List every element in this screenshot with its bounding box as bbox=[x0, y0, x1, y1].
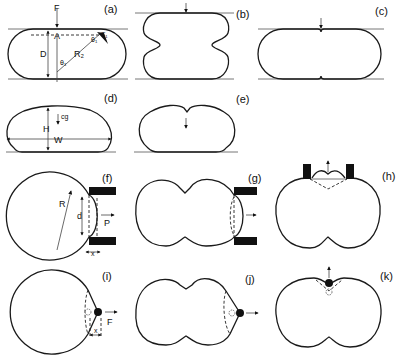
force-label: P bbox=[104, 218, 110, 228]
depth-label: D bbox=[40, 49, 47, 59]
panel-label-j: (j) bbox=[245, 273, 255, 285]
cg-label: cg bbox=[61, 113, 69, 121]
panel-label-i: (i) bbox=[102, 270, 112, 282]
panel-label-f: (f) bbox=[102, 172, 112, 184]
panel-label-a: (a) bbox=[104, 3, 117, 15]
panel-k: (k) bbox=[276, 267, 393, 347]
cell-outline bbox=[276, 278, 381, 347]
panel-label-c: (c) bbox=[375, 5, 388, 17]
aspirated-bulge bbox=[89, 195, 97, 237]
bead-initial-icon bbox=[229, 310, 235, 316]
cell-outline bbox=[144, 13, 229, 79]
pipette-wall-top bbox=[234, 187, 257, 195]
pipette-wall-bottom bbox=[234, 237, 257, 245]
bead-icon bbox=[236, 309, 244, 317]
cell-outline bbox=[258, 29, 381, 79]
aspirated-bulge bbox=[234, 195, 243, 237]
pipette-wall-top bbox=[89, 187, 116, 195]
panel-d: H cg W (d) bbox=[6, 92, 117, 152]
panel-label-b: (b) bbox=[236, 8, 249, 20]
drop-outline bbox=[7, 106, 111, 152]
initial-contour bbox=[230, 197, 234, 235]
panel-j: (j) bbox=[136, 273, 258, 345]
bead-icon bbox=[94, 308, 102, 316]
bead-icon bbox=[325, 279, 333, 287]
tension-label: T₁ bbox=[101, 31, 108, 38]
panel-label-k: (k) bbox=[380, 270, 393, 282]
width-label: W bbox=[54, 135, 63, 145]
panel-e: (e) bbox=[134, 93, 249, 152]
offset-label: x bbox=[94, 327, 98, 334]
bead-initial-icon bbox=[326, 289, 332, 295]
bead-initial-icon bbox=[85, 309, 91, 315]
depth-label: d bbox=[77, 211, 82, 221]
offset-label: x bbox=[91, 250, 95, 257]
panel-b: (b) bbox=[135, 3, 249, 79]
panel-i: F x (i) bbox=[10, 270, 117, 354]
panel-h: (h) bbox=[276, 161, 396, 248]
panel-label-g: (g) bbox=[248, 172, 261, 184]
panel-label-e: (e) bbox=[236, 93, 249, 105]
pipette-wall-left bbox=[303, 164, 311, 179]
angle-label: θ₁ bbox=[60, 59, 67, 66]
cell-outline bbox=[136, 180, 234, 246]
force-label: F bbox=[107, 317, 113, 327]
cell-outline bbox=[10, 270, 88, 354]
pipette-wall-bottom bbox=[89, 237, 116, 245]
angle2-label: θ₁ bbox=[91, 36, 98, 43]
aspirated-bulge bbox=[312, 171, 345, 178]
panel-a: F A D θ₁ R₂ θ₁ T₁ (a) bbox=[8, 3, 128, 82]
panel-label-d: (d) bbox=[104, 92, 117, 104]
initial-contour bbox=[224, 291, 230, 334]
height-label: H bbox=[43, 124, 50, 134]
initial-contour bbox=[85, 290, 88, 334]
figure-canvas: F A D θ₁ R₂ θ₁ T₁ (a) (b) (c) H cg bbox=[0, 0, 400, 357]
radius-label: R bbox=[59, 199, 66, 209]
panel-g: (g) bbox=[136, 172, 262, 246]
drop-outline bbox=[139, 105, 235, 152]
radius-label: R₂ bbox=[74, 49, 84, 59]
pipette-wall-right bbox=[346, 164, 354, 179]
panel-label-h: (h) bbox=[382, 170, 395, 182]
initial-contour bbox=[310, 179, 347, 189]
panel-f: R d P x (f) bbox=[6, 172, 116, 260]
force-label: F bbox=[54, 3, 60, 13]
cell-outline bbox=[8, 29, 126, 79]
cell-outline bbox=[136, 279, 230, 345]
panel-c: (c) bbox=[258, 5, 388, 79]
